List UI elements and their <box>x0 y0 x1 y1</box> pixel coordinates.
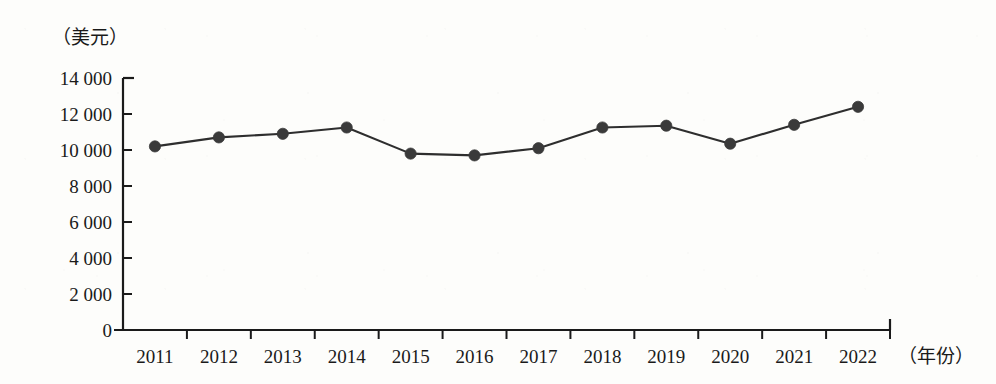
x-axis-ticks <box>187 330 890 339</box>
data-point-marker <box>341 122 352 133</box>
data-point-marker <box>661 120 672 131</box>
data-point-marker <box>533 143 544 154</box>
data-point-marker <box>789 119 800 130</box>
data-series-line <box>155 107 858 156</box>
data-point-marker <box>597 122 608 133</box>
data-point-marker <box>277 128 288 139</box>
data-point-marker <box>852 101 863 112</box>
axis-lines <box>123 78 890 330</box>
data-point-marker <box>405 148 416 159</box>
plot-area <box>0 0 996 384</box>
data-point-marker <box>149 141 160 152</box>
data-point-marker <box>725 138 736 149</box>
line-chart: （美元） 02 0004 0006 0008 00010 00012 00014… <box>0 0 996 384</box>
data-point-marker <box>213 132 224 143</box>
data-point-marker <box>469 150 480 161</box>
